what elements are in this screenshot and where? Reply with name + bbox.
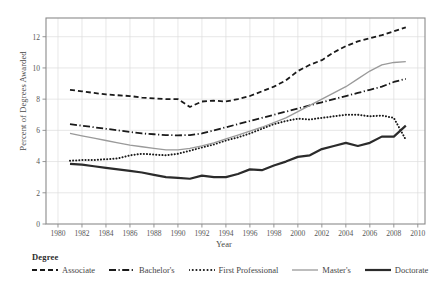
- legend-entry-doctorate[interactable]: Doctorate: [365, 265, 429, 275]
- x-tick-label: 1982: [74, 229, 89, 238]
- y-tick-label: 12: [33, 33, 41, 42]
- x-tick-label: 1990: [170, 229, 185, 238]
- legend-entry-master-s[interactable]: Master's: [292, 265, 350, 275]
- series-line-first-professional: [70, 115, 406, 161]
- x-tick-label: 2002: [314, 229, 329, 238]
- y-tick-label: 10: [33, 64, 41, 73]
- chart-figure: 1980198219841986198819901992199419961998…: [0, 0, 448, 288]
- legend-items: AssociateBachelor'sFirst ProfessionalMas…: [32, 265, 442, 275]
- x-tick-label: 2010: [410, 229, 425, 238]
- legend-entry-bachelor-s[interactable]: Bachelor's: [109, 265, 175, 275]
- x-tick-label: 2006: [362, 229, 377, 238]
- y-tick-label: 2: [36, 189, 40, 198]
- legend-label: First Professional: [219, 265, 279, 275]
- x-tick-label: 1992: [194, 229, 209, 238]
- x-tick-label: 1996: [242, 229, 257, 238]
- series-line-associate: [70, 27, 406, 107]
- y-tick-label: 4: [36, 157, 40, 166]
- x-tick-label: 2004: [338, 229, 353, 238]
- legend-entry-associate[interactable]: Associate: [32, 265, 95, 275]
- x-tick-label: 2000: [290, 229, 305, 238]
- y-axis-title: Percent of Degrees Awarded: [18, 16, 28, 186]
- series-line-bachelor-s: [70, 79, 406, 136]
- x-tick-label: 1986: [122, 229, 137, 238]
- y-tick-label: 6: [36, 126, 40, 135]
- legend-label: Associate: [62, 265, 95, 275]
- legend-label: Doctorate: [395, 265, 429, 275]
- dashed-line-icon: [32, 266, 58, 274]
- dashdot-line-icon: [109, 266, 135, 274]
- thick-solid-line-icon: [365, 266, 391, 274]
- thin-solid-line-icon: [292, 266, 318, 274]
- x-tick-label: 1984: [98, 229, 113, 238]
- legend-label: Bachelor's: [139, 265, 175, 275]
- legend-entry-first-professional[interactable]: First Professional: [189, 265, 279, 275]
- x-tick-label: 2008: [386, 229, 401, 238]
- y-tick-label: 0: [36, 220, 40, 229]
- x-axis-title: Year: [160, 239, 288, 249]
- x-tick-label: 1994: [218, 229, 233, 238]
- x-tick-label: 1980: [50, 229, 65, 238]
- series-line-doctorate: [70, 126, 406, 179]
- chart-legend: Degree AssociateBachelor'sFirst Professi…: [32, 252, 442, 275]
- y-tick-label: 8: [36, 95, 40, 104]
- dotted-line-icon: [189, 266, 215, 274]
- legend-label: Master's: [322, 265, 350, 275]
- legend-title: Degree: [32, 252, 442, 262]
- x-tick-label: 1988: [146, 229, 161, 238]
- x-tick-label: 1998: [266, 229, 281, 238]
